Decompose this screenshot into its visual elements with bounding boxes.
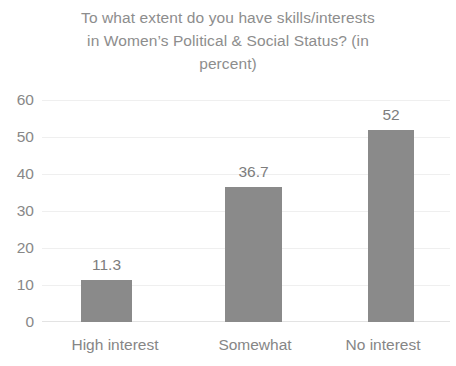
plot-area [42,100,450,322]
chart-title: To what extent do you have skills/intere… [18,6,438,75]
y-axis-tick-label: 40 [0,166,34,182]
y-axis-tick-label: 20 [0,240,34,256]
chart-title-line-3: percent) [18,52,438,75]
bar-value-label: 52 [338,107,444,123]
x-axis-tick-label: High interest [35,336,195,354]
bar-high-interest [81,280,132,322]
y-axis-tick-label: 60 [0,92,34,108]
bar-value-label: 11.3 [51,257,162,273]
bar-no-interest [368,130,414,322]
bar-somewhat [225,187,282,322]
y-axis-tick-label: 50 [0,129,34,145]
bar-value-label: 36.7 [195,164,312,180]
chart-title-line-1: To what extent do you have skills/intere… [18,6,438,29]
y-axis-tick-label: 10 [0,277,34,293]
gridline [42,100,450,101]
bar-chart: To what extent do you have skills/intere… [0,0,456,366]
x-axis-tick-label: No interest [310,336,456,354]
y-axis-tick-label: 0 [0,314,34,330]
y-axis-tick-label: 30 [0,203,34,219]
chart-title-line-2: in Women’s Political & Social Status? (i… [18,29,438,52]
